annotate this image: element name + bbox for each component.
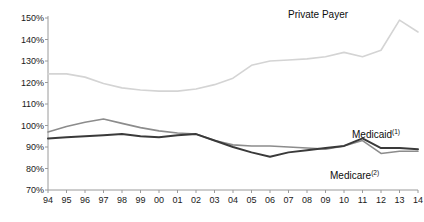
x-axis-tick-label: 11 (358, 196, 367, 205)
x-axis-tick-label: 97 (98, 196, 108, 205)
x-axis-tick-label: 01 (172, 196, 182, 205)
y-axis-tick-labels: 150%140%130%120%110%100%90%80%70% (0, 0, 44, 222)
x-axis-tick-label: 04 (228, 196, 238, 205)
x-axis-tick-label: 94 (43, 196, 53, 205)
x-axis-tick-label: 05 (246, 196, 256, 205)
axis-group (45, 16, 418, 193)
series-label-medicare: Medicare(2) (330, 171, 379, 181)
series-label-medicaid: Medicaid(1) (352, 130, 400, 140)
y-axis-tick-label: 120% (4, 78, 44, 87)
y-axis-tick-label: 130% (4, 57, 44, 66)
x-axis-tick-label: 98 (117, 196, 127, 205)
series-label-medicare-superscript: (2) (371, 169, 379, 176)
x-axis-tick-label: 96 (80, 196, 90, 205)
x-axis-tick-label: 03 (209, 196, 219, 205)
series-line-private-payer (48, 20, 418, 91)
chart-container: 150%140%130%120%110%100%90%80%70% 949596… (0, 0, 424, 222)
series-label-private-payer: Private Payer (288, 10, 348, 20)
y-axis-tick-label: 140% (4, 35, 44, 44)
x-axis-tick-label: 02 (191, 196, 201, 205)
chart-plot-svg (0, 0, 424, 222)
y-axis-tick-label: 90% (4, 143, 44, 152)
x-axis-tick-label: 08 (302, 196, 312, 205)
x-axis-tick-label: 07 (283, 196, 293, 205)
x-axis-tick-label: 12 (376, 196, 386, 205)
y-axis-tick-label: 110% (4, 100, 44, 109)
x-axis-tick-label: 13 (394, 196, 404, 205)
x-axis-tick-label: 09 (320, 196, 330, 205)
x-axis-tick-label: 06 (265, 196, 275, 205)
y-axis-tick-label: 100% (4, 121, 44, 130)
y-axis-tick-label: 70% (4, 186, 44, 195)
series-label-private-payer-text: Private Payer (288, 9, 348, 20)
y-axis-tick-label: 80% (4, 164, 44, 173)
x-axis-tick-label: 10 (339, 196, 349, 205)
x-axis-tick-label: 99 (135, 196, 145, 205)
series-label-medicaid-superscript: (1) (392, 128, 400, 135)
x-axis-tick-labels: 9495969798990001020304050607080910111213… (48, 196, 418, 214)
x-axis-tick-label: 00 (154, 196, 164, 205)
series-label-medicaid-text: Medicaid (352, 129, 392, 140)
series-label-medicare-text: Medicare (330, 170, 371, 181)
x-axis-tick-label: 95 (61, 196, 71, 205)
y-axis-tick-label: 150% (4, 14, 44, 23)
x-axis-tick-label: 14 (413, 196, 423, 205)
